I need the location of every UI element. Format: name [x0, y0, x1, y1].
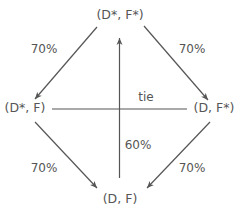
label-left-to-bottom: 70%: [31, 161, 58, 175]
label-tie: tie: [138, 90, 153, 104]
node-bottom: (D, F): [103, 192, 138, 206]
label-top-to-right: 70%: [179, 42, 206, 56]
arrow-top-to-right: [144, 26, 208, 100]
label-top-to-left: 70%: [31, 42, 58, 56]
label-right-to-bottom: 70%: [179, 161, 206, 175]
node-left: (D*, F): [5, 101, 46, 115]
node-right: (D, F*): [194, 101, 235, 115]
arrow-top-to-left: [35, 27, 97, 99]
node-top: (D*, F*): [96, 8, 143, 22]
arrow-right-to-bottom: [147, 122, 210, 188]
label-bottom-to-top: 60%: [125, 138, 152, 152]
arrow-left-to-bottom: [35, 122, 97, 188]
transition-diagram: (D*, F*) (D*, F) (D, F*) (D, F) 70% 70% …: [0, 0, 239, 216]
